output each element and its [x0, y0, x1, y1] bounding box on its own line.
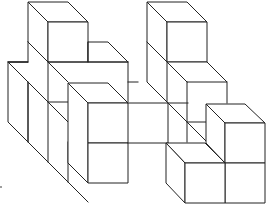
- cube-figure: Isometric cube arrangement: [0, 0, 270, 216]
- front-left-column: [68, 83, 128, 183]
- left-tower: [28, 2, 88, 62]
- right-front-block: [166, 104, 265, 203]
- cube-drawing: [0, 0, 270, 216]
- stray-mark: [0, 186, 2, 188]
